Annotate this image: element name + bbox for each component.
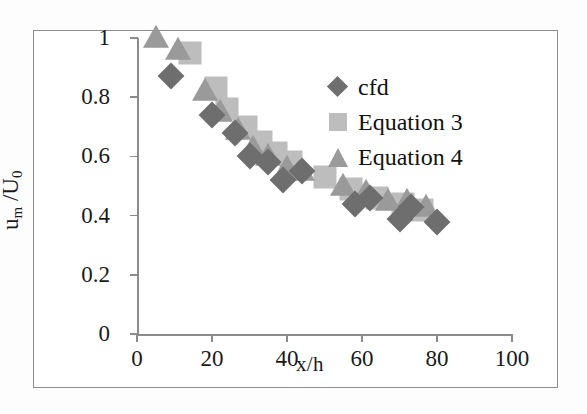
x-tick-mark [361,334,363,342]
y-tick-label: 0.6 [58,144,110,167]
legend: cfdEquation 3Equation 4 [326,72,463,177]
y-tick-mark [130,274,138,276]
triangle-icon [326,144,354,170]
legend-item-equation-4: Equation 4 [326,142,463,172]
legend-item-cfd: cfd [326,72,463,102]
x-tick-mark [511,334,513,342]
data-point-diamond [157,63,184,90]
y-tick-label: 1 [58,26,110,49]
y-tick-label: 0.2 [58,263,110,286]
data-point-triangle [165,36,191,59]
y-tick-label: 0.4 [58,204,110,227]
x-tick-label: 0 [107,347,167,370]
x-tick-mark [211,334,213,342]
legend-item-label: Equation 4 [358,144,463,171]
y-tick-label: 0 [58,322,110,345]
y-axis-title-slash-u: /U [0,178,23,207]
y-tick-mark [130,156,138,158]
y-axis-title-u: u [0,219,23,231]
y-axis-title-sub-m: m [9,207,25,219]
x-tick-mark [436,334,438,342]
y-axis-title-sub-zero: 0 [9,171,25,179]
x-tick-label: 100 [482,347,542,370]
y-tick-mark [130,215,138,217]
data-point-triangle [192,78,218,101]
figure-root: 00.20.40.60.81 020406080100 x/h um /U0 c… [0,0,587,414]
square-icon [326,109,354,135]
x-axis-line [137,334,513,336]
x-tick-label: 60 [332,347,392,370]
legend-item-label: cfd [358,74,389,101]
y-axis-line [137,38,139,335]
x-axis-title: x/h [296,352,324,377]
legend-item-label: Equation 3 [358,109,463,136]
y-tick-label: 0.8 [58,85,110,108]
diamond-icon [326,74,354,100]
x-tick-mark [286,334,288,342]
y-tick-mark [130,96,138,98]
y-tick-mark [130,37,138,39]
plot-area: 00.20.40.60.81 020406080100 x/h um /U0 c… [0,0,587,414]
legend-item-equation-3: Equation 3 [326,107,463,137]
x-tick-mark [136,334,138,342]
y-axis-title: um /U0 [0,90,24,230]
x-tick-label: 80 [407,347,467,370]
x-tick-label: 20 [182,347,242,370]
